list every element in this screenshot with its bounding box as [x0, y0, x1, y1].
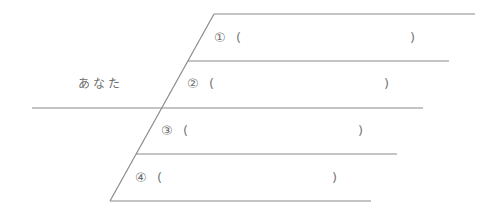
open-paren: ( — [209, 77, 214, 91]
open-paren: ( — [157, 171, 162, 185]
close-paren: ) — [384, 77, 389, 91]
open-paren: ( — [183, 124, 188, 138]
item-number: ④ — [135, 171, 147, 185]
open-paren: ( — [236, 31, 241, 45]
close-paren: ) — [332, 171, 337, 185]
you-label: あなた — [78, 77, 123, 91]
close-paren: ) — [358, 124, 363, 138]
layered-diagram — [0, 0, 490, 219]
item-number: ① — [214, 31, 226, 45]
close-paren: ) — [410, 31, 415, 45]
item-number: ③ — [161, 124, 173, 138]
item-number: ② — [187, 77, 199, 91]
